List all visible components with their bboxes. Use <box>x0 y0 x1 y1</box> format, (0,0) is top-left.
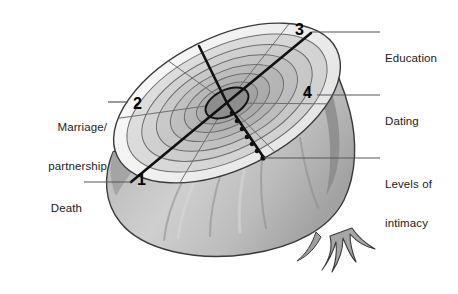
label-levels-of-intimacy: Levels of intimacy <box>385 152 457 256</box>
intimacy-dot <box>250 142 255 147</box>
root-tendrils <box>322 228 375 272</box>
intimacy-dot <box>245 135 250 140</box>
onion-intimacy-diagram: 1 2 3 4 Marriage/ partnership Death Educ… <box>0 0 458 294</box>
label-death-line1: Death <box>42 202 82 215</box>
marker-number-3: 3 <box>295 22 304 38</box>
intimacy-dot <box>240 127 245 132</box>
label-dating-line1: Dating <box>385 115 457 128</box>
intimacy-dot <box>230 111 235 116</box>
label-levels-line1: Levels of <box>385 178 457 191</box>
marker-number-4: 4 <box>303 85 312 101</box>
label-death: Death <box>42 176 82 241</box>
label-marriage-line2: partnership <box>27 160 107 173</box>
marker-number-1: 1 <box>137 172 146 188</box>
intimacy-dot <box>235 119 240 124</box>
label-education: Education <box>385 26 457 91</box>
label-marriage-line1: Marriage/ <box>27 121 107 134</box>
intimacy-dot <box>255 149 260 154</box>
label-levels-line2: intimacy <box>385 217 457 230</box>
marker-number-2: 2 <box>133 96 142 112</box>
label-education-line1: Education <box>385 52 457 65</box>
label-dating: Dating <box>385 89 457 154</box>
